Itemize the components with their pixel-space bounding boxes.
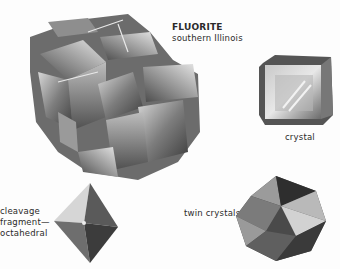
octahedron-illustration <box>54 183 118 263</box>
specimen-locality: southern Illinois <box>172 33 243 44</box>
crystal-label: crystal <box>285 132 315 143</box>
cleavage-label: cleavage fragment— octahedral <box>0 206 50 239</box>
cleavage-line-1: cleavage <box>0 206 50 217</box>
cleavage-line-3: octahedral <box>0 228 50 239</box>
twin-crystals-label: twin crystals <box>184 208 240 219</box>
specimen-name: FLUORITE <box>172 22 223 33</box>
cleavage-line-2: fragment— <box>0 217 50 228</box>
twin-crystals-illustration <box>236 176 328 261</box>
cube-crystal-illustration <box>255 53 335 129</box>
